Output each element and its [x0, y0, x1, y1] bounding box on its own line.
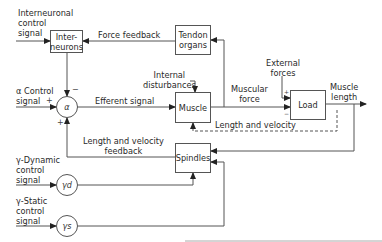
alpha-left-sign: + [46, 96, 53, 105]
tendon-label-2: organs [178, 40, 207, 50]
tendon-label-1: Tendon [178, 30, 207, 40]
spindles-block: Spindles [175, 143, 211, 173]
alpha-bottom-sign: + [57, 118, 64, 127]
gamma-static-junction: γs [56, 215, 78, 237]
load-label: Load [298, 100, 318, 110]
gamma-static-symbol: γs [63, 222, 72, 231]
gamma-dynamic-input-label: γ-Dynamic control signal [16, 155, 60, 185]
load-bottom-sign: − [284, 110, 289, 117]
interneuronal-input-label: Interneuronal control signal [18, 8, 73, 38]
load-block: Load [290, 90, 326, 120]
tendon-organs-block: Tendonorgans [175, 25, 211, 55]
gamma-static-input-label: γ-Static control signal [16, 196, 47, 226]
alpha-top-sign: − [72, 85, 79, 94]
gamma-dynamic-symbol: γd [62, 181, 72, 190]
muscle-block: Muscle [175, 92, 211, 123]
muscular-force-label: Muscular force [231, 84, 268, 104]
internal-disturbances-label: Internal disturbances [143, 70, 196, 90]
gamma-dynamic-to-spindles-arrow [78, 173, 193, 185]
length-and-velocity-label: Length and velocity [215, 120, 296, 130]
force-to-tendon-arrow [211, 40, 224, 107]
force-feedback-label: Force feedback [98, 30, 160, 40]
interneurons-label-2: neurons [50, 42, 83, 52]
spindles-label: Spindles [176, 153, 211, 163]
muscle-label: Muscle [179, 103, 207, 113]
load-top-sign: + [284, 88, 289, 95]
external-forces-label: External forces [266, 58, 300, 78]
lv-feedback-label: Length and velocity feedback [83, 136, 164, 156]
muscle-length-label: Muscle length [330, 82, 358, 102]
efferent-signal-label: Efferent signal [95, 96, 154, 106]
alpha-summing-junction: α [56, 96, 78, 118]
alpha-symbol: α [64, 103, 69, 112]
